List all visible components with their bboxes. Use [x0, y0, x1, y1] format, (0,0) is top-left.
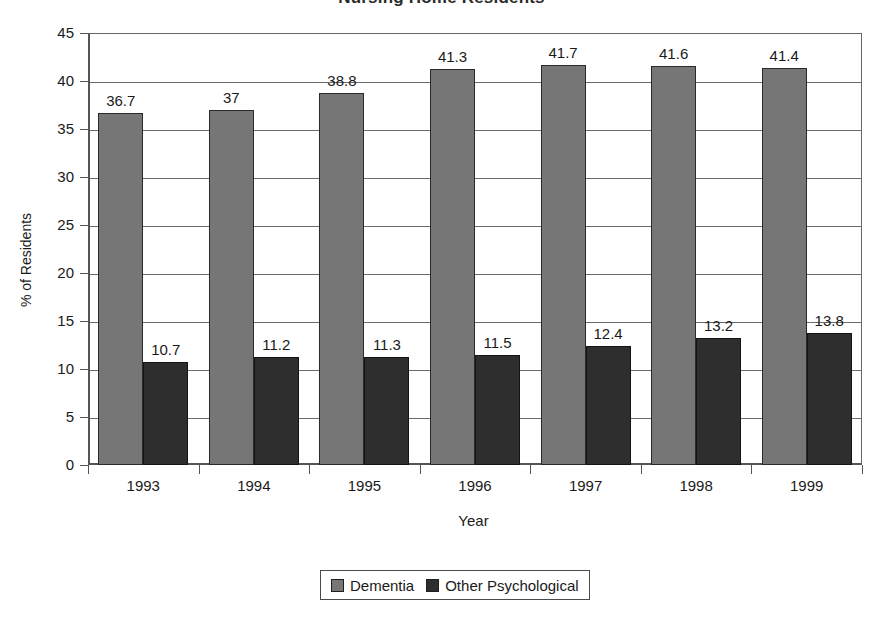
- bar-group: 41.413.8: [751, 33, 862, 465]
- bar-other-psychological-1995[interactable]: [364, 357, 409, 465]
- x-axis-category-1999: 1999: [751, 477, 862, 494]
- bar-value-label: 10.7: [131, 341, 200, 358]
- x-axis-title: Year: [0, 512, 883, 529]
- bar-group: 41.311.5: [420, 33, 531, 465]
- y-axis-tick-label: 25: [30, 216, 74, 233]
- x-axis-tick: [309, 465, 310, 474]
- y-axis-tick: [80, 33, 89, 34]
- y-axis-tick-label: 15: [30, 312, 74, 329]
- bar-dementia-1995[interactable]: [319, 93, 364, 465]
- bar-dementia-1994[interactable]: [209, 110, 254, 465]
- bar-group: 41.613.2: [641, 33, 752, 465]
- bar-value-label: 41.6: [639, 45, 708, 62]
- y-axis-tick-label: 40: [30, 72, 74, 89]
- bar-dementia-1998[interactable]: [651, 66, 696, 465]
- bar-other-psychological-1994[interactable]: [254, 357, 299, 465]
- bars-layer: 36.710.73711.238.811.341.311.541.712.441…: [88, 33, 862, 465]
- bar-group: 41.712.4: [530, 33, 641, 465]
- bar-group: 36.710.7: [88, 33, 199, 465]
- y-axis-tick-label: 0: [30, 456, 74, 473]
- y-axis-tick-label: 45: [30, 24, 74, 41]
- legend-swatch-icon: [426, 579, 439, 592]
- bar-other-psychological-1998[interactable]: [696, 338, 741, 465]
- x-axis-tick: [88, 465, 89, 474]
- legend-item[interactable]: Other Psychological: [426, 577, 578, 594]
- y-axis-tick-label: 10: [30, 360, 74, 377]
- x-axis-tick: [420, 465, 421, 474]
- bar-value-label: 11.2: [242, 336, 311, 353]
- bar-value-label: 41.3: [418, 48, 487, 65]
- x-axis-title-text: Year: [458, 512, 488, 529]
- x-axis-category-1997: 1997: [530, 477, 641, 494]
- bar-other-psychological-1997[interactable]: [586, 346, 631, 465]
- y-axis-tick: [80, 417, 89, 418]
- y-axis-tick: [80, 321, 89, 322]
- bar-value-label: 13.8: [795, 312, 864, 329]
- chart-legend: DementiaOther Psychological: [320, 570, 590, 600]
- x-axis-tick: [199, 465, 200, 474]
- legend-swatch-icon: [331, 579, 344, 592]
- x-axis-tick: [530, 465, 531, 474]
- legend-item[interactable]: Dementia: [331, 577, 414, 594]
- y-axis-tick-label: 30: [30, 168, 74, 185]
- bar-value-label: 11.3: [352, 336, 421, 353]
- y-axis-tick-label: 35: [30, 120, 74, 137]
- bar-value-label: 41.4: [750, 47, 819, 64]
- y-axis-tick: [80, 369, 89, 370]
- bar-value-label: 41.7: [529, 44, 598, 61]
- bar-group: 3711.2: [199, 33, 310, 465]
- y-axis-tick-label: 5: [30, 408, 74, 425]
- y-axis-tick: [80, 129, 89, 130]
- legend-label: Other Psychological: [445, 577, 578, 594]
- y-axis-tick: [80, 81, 89, 82]
- bar-value-label: 37: [197, 89, 266, 106]
- x-axis-category-1993: 1993: [88, 477, 199, 494]
- bar-other-psychological-1999[interactable]: [807, 333, 852, 465]
- legend-label: Dementia: [350, 577, 414, 594]
- bar-other-psychological-1993[interactable]: [143, 362, 188, 465]
- x-axis-category-1995: 1995: [309, 477, 420, 494]
- y-axis-tick: [80, 273, 89, 274]
- bar-dementia-1997[interactable]: [541, 65, 586, 465]
- bar-dementia-1999[interactable]: [762, 68, 807, 465]
- bar-chart: Nursing Home Residents % of Residents 36…: [0, 0, 883, 626]
- x-axis-tick: [751, 465, 752, 474]
- y-axis-tick: [80, 177, 89, 178]
- bar-dementia-1993[interactable]: [98, 113, 143, 465]
- x-axis-category-1996: 1996: [420, 477, 531, 494]
- bar-value-label: 11.5: [463, 334, 532, 351]
- chart-title-text: Nursing Home Residents: [0, 0, 883, 8]
- bar-value-label: 38.8: [307, 72, 376, 89]
- x-axis-tick: [641, 465, 642, 474]
- bar-dementia-1996[interactable]: [430, 69, 475, 465]
- bar-value-label: 36.7: [86, 92, 155, 109]
- chart-title-remnant: Nursing Home Residents: [0, 0, 883, 8]
- bar-value-label: 12.4: [574, 325, 643, 342]
- bar-group: 38.811.3: [309, 33, 420, 465]
- bar-other-psychological-1996[interactable]: [475, 355, 520, 465]
- x-axis-category-1994: 1994: [199, 477, 310, 494]
- y-axis-tick-label: 20: [30, 264, 74, 281]
- bar-value-label: 13.2: [684, 317, 753, 334]
- x-axis-category-1998: 1998: [641, 477, 752, 494]
- x-axis-tick: [862, 465, 863, 474]
- y-axis-tick: [80, 225, 89, 226]
